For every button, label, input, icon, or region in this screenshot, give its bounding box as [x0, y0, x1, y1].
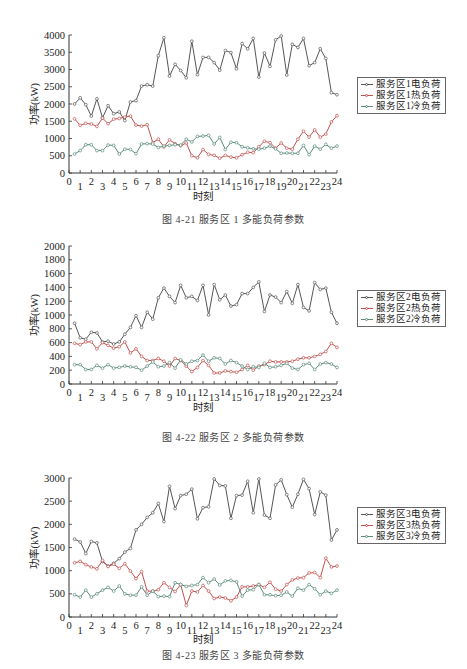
data-point	[73, 538, 76, 541]
line-marker-icon	[361, 514, 373, 515]
data-point	[246, 292, 249, 295]
data-point	[257, 76, 260, 79]
data-point	[112, 347, 115, 350]
line-chart-3: 0500100015002000250030000123456789101112…	[0, 452, 467, 647]
data-point	[257, 280, 260, 283]
data-point	[246, 589, 249, 592]
data-point	[246, 364, 249, 367]
data-point	[107, 344, 110, 347]
data-point	[151, 143, 154, 146]
figure-2: 0200400600800100012001400160018002000012…	[0, 238, 467, 448]
x-tick-label: 7	[145, 392, 150, 403]
data-point	[157, 146, 160, 149]
data-point	[163, 581, 166, 584]
x-tick-label: 8	[156, 620, 161, 631]
data-point	[185, 604, 188, 607]
data-point	[140, 570, 143, 573]
data-point	[101, 589, 104, 592]
x-tick-label: 23	[321, 181, 332, 192]
data-point	[252, 37, 255, 40]
legend-1: 服务区1电负荷 服务区1热负荷 服务区1冷负荷	[357, 77, 446, 114]
data-point	[302, 363, 305, 366]
legend-item-heat: 服务区3热负荷	[361, 520, 441, 531]
data-point	[269, 517, 272, 520]
data-point	[252, 585, 255, 588]
data-point	[285, 583, 288, 586]
data-point	[123, 333, 126, 336]
data-point	[291, 360, 294, 363]
x-axis-title: 时刻	[193, 190, 213, 202]
data-point	[218, 484, 221, 487]
data-point	[297, 587, 300, 590]
data-point	[151, 590, 154, 593]
data-point	[218, 357, 221, 360]
data-point	[84, 589, 87, 592]
data-point	[79, 96, 82, 99]
data-point	[324, 350, 327, 353]
data-point	[202, 584, 205, 587]
y-tick-label: 1000	[44, 133, 65, 144]
data-point	[163, 36, 166, 39]
data-point	[280, 594, 283, 597]
data-point	[297, 368, 300, 371]
line-chart-2: 0200400600800100012001400160018002000012…	[0, 238, 467, 428]
data-point	[96, 364, 99, 367]
data-point	[146, 123, 149, 126]
data-point	[241, 494, 244, 497]
data-point	[213, 597, 216, 600]
y-tick-label: 1800	[44, 254, 65, 265]
data-point	[302, 144, 305, 147]
data-point	[246, 151, 249, 154]
y-tick-label: 800	[49, 323, 65, 334]
data-point	[151, 511, 154, 514]
data-point	[79, 560, 82, 563]
data-point	[135, 152, 138, 155]
data-point	[330, 311, 333, 314]
data-point	[96, 592, 99, 595]
data-point	[174, 143, 177, 146]
data-point	[163, 145, 166, 148]
x-tick-label: 5	[122, 392, 127, 403]
data-point	[246, 585, 249, 588]
y-tick-label: 2000	[44, 519, 65, 530]
data-point	[168, 361, 171, 364]
data-point	[319, 593, 322, 596]
data-point	[302, 356, 305, 359]
data-point	[163, 520, 166, 523]
data-point	[90, 566, 93, 569]
y-tick-label: 500	[49, 150, 65, 161]
data-point	[84, 563, 87, 566]
data-point	[313, 128, 316, 131]
data-point	[274, 588, 277, 591]
data-point	[330, 566, 333, 569]
data-point	[313, 61, 316, 64]
line-marker-icon	[361, 308, 373, 309]
x-tick-label: 9	[167, 181, 172, 192]
data-point	[135, 124, 138, 127]
data-point	[118, 345, 121, 348]
data-point	[79, 124, 82, 127]
data-point	[146, 311, 149, 314]
data-point	[297, 577, 300, 580]
data-point	[235, 361, 238, 364]
y-tick-label: 1000	[44, 310, 65, 321]
data-point	[252, 365, 255, 368]
data-point	[269, 65, 272, 68]
data-point	[230, 156, 233, 159]
data-point	[84, 143, 87, 146]
x-tick-label: 24	[332, 387, 343, 398]
data-point	[118, 153, 121, 156]
data-point	[107, 586, 110, 589]
data-point	[213, 143, 216, 146]
data-point	[308, 362, 311, 365]
x-tick-label: 8	[156, 176, 161, 187]
x-tick-label: 23	[321, 625, 332, 636]
data-point	[218, 136, 221, 139]
data-point	[73, 561, 76, 564]
data-point	[118, 366, 121, 369]
data-point	[129, 570, 132, 573]
data-point	[179, 69, 182, 72]
data-point	[107, 565, 110, 568]
data-point	[196, 135, 199, 138]
data-point	[73, 322, 76, 325]
